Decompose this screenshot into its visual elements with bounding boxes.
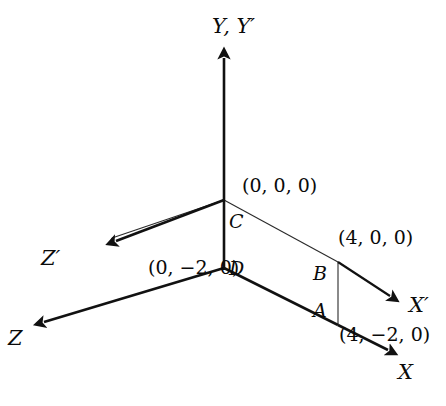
axis-label-y: Y, Y′ [212,16,255,37]
coord-label-d: (0, −2, 0) [148,258,239,277]
axis-label-z: Z [8,328,23,349]
edge-back-cap [110,238,112,243]
axis-label-x-prime: X′ [409,295,429,316]
coordinate-diagram: Y, Y′ Z′ Z X′ X (0, 0, 0) C (0, −2, 0) D… [0,0,446,406]
axis-label-x: X [398,362,413,383]
axis-label-z-prime: Z′ [41,248,60,269]
z-prime-axis-line [116,200,224,241]
coord-label-b: (4, 0, 0) [338,228,413,247]
x-prime-group [338,262,390,296]
point-label-d: D [229,259,244,278]
coord-label-origin: (0, 0, 0) [242,176,317,195]
point-label-a: A [313,301,327,320]
x-prime-axis-line [338,262,390,296]
point-label-c: C [229,212,244,231]
point-label-b: B [313,264,327,283]
axis-lines [44,58,388,350]
coord-label-a: (4, −2, 0) [339,325,430,344]
axes-drawing [0,0,446,406]
